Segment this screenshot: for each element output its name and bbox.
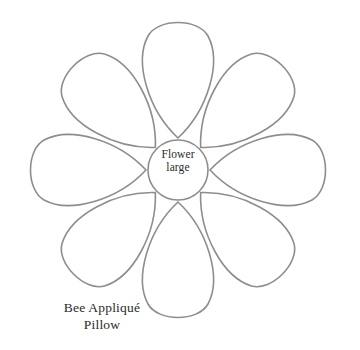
flower-diagram (0, 0, 360, 350)
caption-line-2: Pillow (46, 317, 158, 334)
center-label-line-2: large (148, 161, 208, 174)
flower-template-page: Flower large Bee Appliqué Pillow (0, 0, 360, 350)
caption-line-1: Bee Appliqué (46, 300, 158, 317)
template-caption: Bee Appliqué Pillow (46, 300, 158, 333)
flower-center-label: Flower large (148, 148, 208, 174)
center-label-line-1: Flower (148, 148, 208, 161)
